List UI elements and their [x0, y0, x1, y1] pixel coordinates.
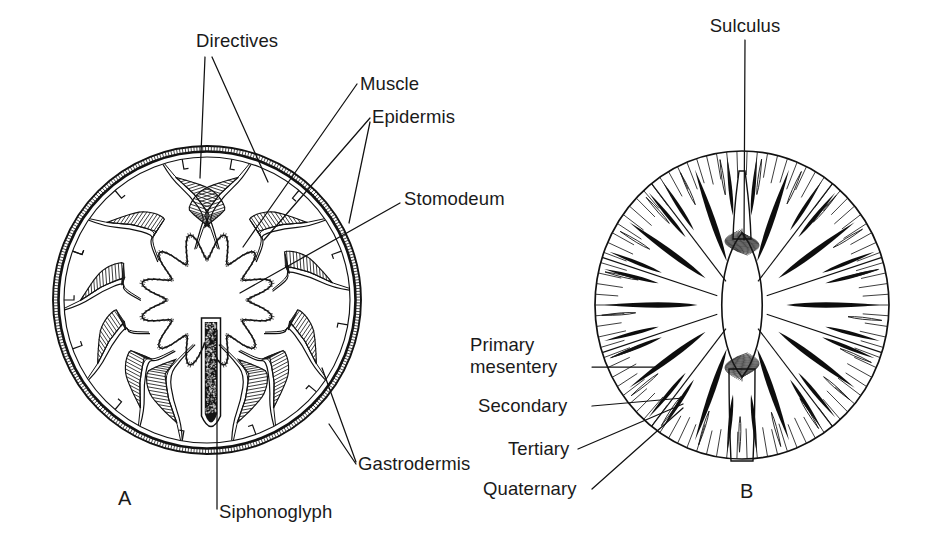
stipple [206, 327, 207, 328]
stipple [207, 371, 208, 372]
stipple [214, 382, 216, 384]
stipple [214, 386, 216, 388]
stipple [209, 346, 211, 348]
stipple [212, 327, 213, 328]
stipple [207, 328, 208, 329]
stipple [213, 370, 214, 371]
stipple [213, 325, 214, 326]
stipple [212, 330, 214, 332]
stipple [215, 406, 216, 407]
stipple [213, 372, 214, 373]
stipple [210, 398, 212, 400]
stipple [208, 406, 209, 407]
stipple [210, 327, 212, 329]
stipple [212, 378, 214, 380]
stipple [208, 376, 209, 377]
stipple [207, 401, 209, 403]
stipple [208, 385, 209, 386]
stipple [206, 407, 207, 408]
stipple [207, 398, 209, 400]
stipple [213, 385, 214, 386]
stipple [212, 357, 213, 358]
anatomical-diagram-svg: A B Directives Muscle Epidermis [0, 0, 929, 555]
stipple [208, 353, 209, 354]
stipple [209, 331, 210, 332]
stipple [207, 359, 208, 360]
stipple [207, 323, 209, 325]
label-primary-mesentery-line2: mesentery [470, 356, 558, 377]
stipple [209, 387, 210, 388]
stipple [205, 351, 206, 352]
stipple [213, 392, 214, 393]
panel-letter-b: B [740, 480, 753, 502]
stipple [215, 341, 216, 342]
label-primary-mesentery-line1: Primary [470, 334, 535, 355]
label-gastrodermis: Gastrodermis [358, 453, 470, 474]
stipple [211, 401, 213, 403]
stipple [209, 396, 210, 397]
stipple [209, 350, 211, 352]
stipple [206, 336, 207, 337]
stipple [213, 347, 215, 349]
stipple [211, 331, 212, 332]
stipple [212, 339, 213, 340]
stipple [211, 328, 213, 330]
label-tertiary: Tertiary [508, 438, 570, 459]
stipple [210, 379, 211, 380]
stipple [209, 393, 210, 394]
stipple [205, 350, 206, 351]
stipple [208, 375, 209, 376]
stipple [211, 405, 213, 407]
stipple [212, 367, 213, 368]
stipple [206, 399, 207, 400]
stipple [209, 336, 210, 337]
stipple [209, 341, 210, 342]
stipple [214, 357, 215, 358]
stipple [207, 369, 208, 370]
stipple [209, 363, 210, 364]
stipple [208, 357, 209, 358]
stipple [211, 408, 213, 410]
stipple [210, 377, 212, 379]
stipple [205, 408, 207, 410]
stipple [206, 323, 207, 324]
stipple [211, 355, 212, 356]
stipple [215, 380, 216, 381]
stipple [206, 370, 207, 371]
stipple [211, 393, 212, 394]
stipple [215, 358, 217, 360]
stipple [215, 363, 216, 364]
stipple [207, 343, 209, 345]
label-sulculus: Sulculus [710, 15, 781, 36]
stipple [206, 389, 207, 390]
stipple [207, 339, 209, 341]
stipple [210, 370, 211, 371]
stipple [215, 326, 217, 328]
stipple [215, 352, 217, 354]
stipple [208, 341, 209, 342]
stipple [209, 374, 211, 376]
stipple [207, 395, 208, 396]
stipple [208, 382, 210, 384]
stipple [211, 369, 213, 371]
stipple [213, 322, 215, 324]
stipple [206, 357, 208, 359]
stipple [215, 368, 217, 370]
stipple [209, 348, 210, 349]
stipple [207, 412, 209, 414]
stipple [206, 386, 207, 387]
stipple [207, 362, 208, 363]
stipple [210, 365, 211, 366]
stipple [211, 366, 212, 367]
stipple [208, 378, 209, 379]
stipple [207, 376, 208, 377]
stipple [214, 392, 215, 393]
stipple [208, 408, 209, 409]
label-quaternary: Quaternary [483, 478, 577, 499]
stipple [206, 359, 207, 360]
stipple [213, 362, 215, 364]
stipple [208, 374, 209, 375]
stipple [207, 391, 209, 393]
stipple [211, 396, 212, 397]
label-siphonoglyph: Siphonoglyph [219, 501, 332, 522]
